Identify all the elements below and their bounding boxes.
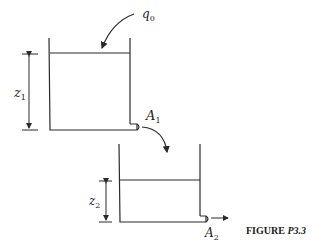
tank-2 (119, 144, 208, 222)
figure-caption: FIGURE P3.3 (246, 225, 306, 236)
inflow-arrow-icon (102, 14, 134, 48)
transfer-arrow-icon (142, 127, 167, 152)
tank-1-outlet-pipe (130, 124, 139, 130)
outlet-1-label: A1 (145, 108, 160, 125)
inflow-label: q0 (142, 7, 155, 23)
tank-1 (49, 38, 139, 130)
outlet-2-label: A2 (204, 226, 219, 242)
tank-2-outlet-pipe (200, 216, 208, 222)
two-tank-diagram: q0 z1 A1 z2 A2 FIGURE P3.3 (0, 0, 324, 250)
tank-1-wall-left-bottom (49, 38, 131, 130)
tank-2-wall-left-bottom (119, 144, 201, 222)
